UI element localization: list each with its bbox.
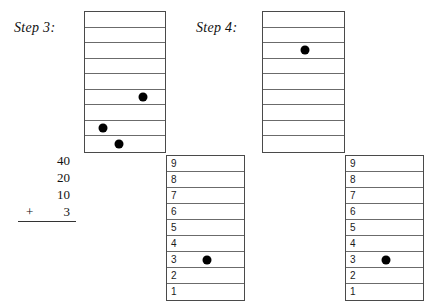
step-4-table-row: 9	[346, 156, 423, 172]
step-3-table-row: 1	[167, 284, 244, 300]
step-4-grid-row	[263, 43, 344, 59]
step-3-label: Step 3:	[14, 20, 55, 36]
row-number-label: 6	[171, 207, 177, 217]
step-3-upper-grid	[84, 11, 166, 153]
step-3-grid-row	[85, 136, 165, 152]
step-3-grid-row	[85, 74, 165, 90]
row-number-label: 5	[171, 223, 177, 233]
row-number-label: 5	[350, 223, 356, 233]
figure-canvas: Step 3: 40 20 10 + 3 987654321 Step 4: 9…	[0, 0, 443, 307]
step-3-table-row: 7	[167, 188, 244, 204]
step-4-upper-grid	[262, 11, 345, 153]
row-number-label: 1	[171, 287, 177, 297]
step-3-grid-row	[85, 90, 165, 106]
step-4-table-row: 8	[346, 172, 423, 188]
step-4-table-row: 6	[346, 204, 423, 220]
bead-dot	[138, 93, 147, 102]
bead-dot	[114, 140, 123, 149]
row-number-label: 2	[171, 271, 177, 281]
row-number-label: 1	[350, 287, 356, 297]
row-number-label: 4	[350, 239, 356, 249]
row-number-label: 3	[171, 255, 177, 265]
addend-value: 20	[18, 169, 76, 186]
step-4-table-row: 1	[346, 284, 423, 300]
row-number-label: 9	[350, 159, 356, 169]
step-3-table-row: 2	[167, 268, 244, 284]
addend-value: 40	[18, 152, 76, 169]
step-4-table-row: 3	[346, 252, 423, 268]
step-3-grid-row	[85, 121, 165, 137]
step-3-grid-row	[85, 59, 165, 75]
step-3-addition-column: 40 20 10 + 3	[18, 152, 76, 222]
row-number-label: 8	[171, 175, 177, 185]
step-4-grid-row	[263, 105, 344, 121]
row-number-label: 7	[171, 191, 177, 201]
step-4-grid-row	[263, 74, 344, 90]
step-3-grid-row	[85, 43, 165, 59]
row-number-label: 3	[350, 255, 356, 265]
step-3-table-row: 9	[167, 156, 244, 172]
step-3-grid-row	[85, 12, 165, 28]
step-4-grid-row	[263, 136, 344, 152]
step-3-table-row: 6	[167, 204, 244, 220]
step-3-grid-row	[85, 28, 165, 44]
row-number-label: 9	[171, 159, 177, 169]
addend-value: 10	[18, 186, 76, 203]
step-4-grid-row	[263, 59, 344, 75]
step-3-numbered-table: 987654321	[166, 155, 245, 301]
step-3-table-row: 3	[167, 252, 244, 268]
step-4-grid-row	[263, 12, 344, 28]
step-4-table-row: 7	[346, 188, 423, 204]
row-number-label: 2	[350, 271, 356, 281]
bead-dot	[203, 255, 212, 264]
bead-dot	[99, 124, 108, 133]
step-4-table-row: 4	[346, 236, 423, 252]
row-number-label: 6	[350, 207, 356, 217]
step-4-grid-row	[263, 90, 344, 106]
row-number-label: 4	[171, 239, 177, 249]
bead-dot	[382, 255, 391, 264]
row-number-label: 8	[350, 175, 356, 185]
step-3-table-row: 4	[167, 236, 244, 252]
plus-sign: +	[18, 203, 33, 220]
bead-dot	[301, 46, 310, 55]
step-4-grid-row	[263, 28, 344, 44]
step-4-table-row: 5	[346, 220, 423, 236]
step-4-grid-row	[263, 121, 344, 137]
step-3-table-row: 5	[167, 220, 244, 236]
addition-last-line: + 3	[18, 203, 76, 222]
step-4-label: Step 4:	[196, 20, 237, 36]
step-4-numbered-table: 987654321	[345, 155, 424, 301]
row-number-label: 7	[350, 191, 356, 201]
step-3-table-row: 8	[167, 172, 244, 188]
step-4-table-row: 2	[346, 268, 423, 284]
step-3-grid-row	[85, 105, 165, 121]
addend-value: 3	[64, 203, 71, 220]
